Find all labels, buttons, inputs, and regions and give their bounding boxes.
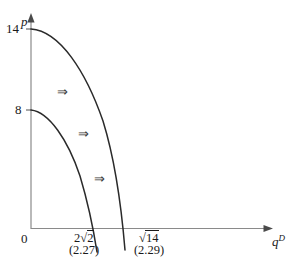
x-tick-label-outer: √14 (2.29) (125, 232, 173, 256)
y-axis-label: p (21, 15, 28, 28)
origin-label: 0 (21, 232, 28, 245)
x-tick-label-inner: 2√2 (2.27) (62, 232, 106, 256)
plot-canvas (0, 0, 301, 268)
x-tick-outer-approx: (2.29) (125, 244, 173, 257)
demand-shift-figure: p qD 14 8 0 2√2 (2.27) √14 (2.29) ⇒ ⇒ ⇒ (0, 0, 301, 268)
x-axis-label: qD (272, 234, 285, 248)
y-tick-label-8: 8 (15, 103, 22, 116)
y-tick-label-14: 14 (6, 22, 19, 35)
x-axis-label-superscript: D (279, 233, 286, 243)
shift-arrow-middle-icon: ⇒ (78, 127, 89, 140)
shift-arrow-bottom-icon: ⇒ (94, 172, 105, 185)
shift-arrow-top-icon: ⇒ (57, 85, 68, 98)
y-axis-arrowhead (27, 13, 34, 23)
x-tick-inner-approx: (2.27) (62, 244, 106, 257)
x-axis-arrowhead (264, 225, 274, 232)
